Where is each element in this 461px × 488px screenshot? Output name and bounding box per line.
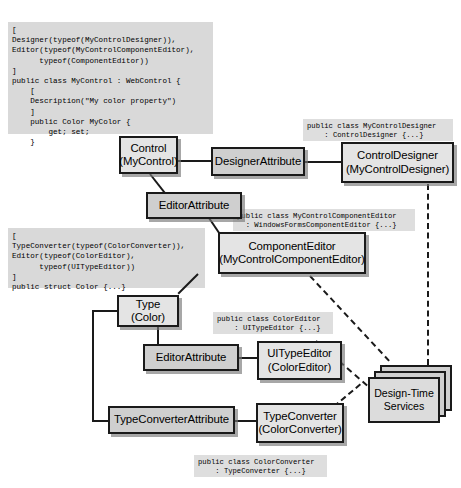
- node-component-editor[interactable]: ComponentEditor (MyControlComponentEdito…: [218, 232, 366, 274]
- node-type-converter-attribute[interactable]: TypeConverterAttribute: [108, 406, 235, 434]
- code-block-mycontrolcomponenteditor-source: public class MyControlComponentEditor : …: [233, 209, 415, 231]
- node-control-line2: (MyControl): [119, 155, 177, 168]
- node-control-line1: Control: [130, 142, 166, 155]
- node-type-color[interactable]: Type (Color): [117, 295, 179, 327]
- connector-type-typeconverterattribute-h1: [92, 310, 118, 312]
- node-type-converter-line2: (ColorConverter): [258, 423, 341, 436]
- node-type-color-line1: Type: [136, 298, 160, 311]
- node-designer-attribute[interactable]: DesignerAttribute: [211, 147, 305, 176]
- node-component-editor-line1: ComponentEditor: [248, 240, 335, 253]
- connector-editorattribute-uitypeeditor: [239, 357, 258, 359]
- connector-designerattribute-controldesigner: [304, 161, 341, 163]
- node-control-designer[interactable]: ControlDesigner (MyControlDesigner): [341, 142, 454, 183]
- node-editor-attribute-bottom[interactable]: EditorAttribute: [143, 344, 239, 371]
- node-type-color-line2: (Color): [131, 311, 165, 324]
- node-design-time-services-line2: Services: [384, 400, 425, 413]
- node-ui-type-editor-line1: UITypeEditor: [267, 347, 332, 360]
- node-editor-attribute-top[interactable]: EditorAttribute: [146, 192, 242, 219]
- code-block-colorconverter-source: public class ColorConverter : TypeConver…: [194, 455, 327, 477]
- node-type-converter[interactable]: TypeConverter (ColorConverter): [256, 403, 344, 443]
- node-design-time-services-line1: Design-Time: [374, 387, 434, 400]
- node-ui-type-editor[interactable]: UITypeEditor (ColorEditor): [257, 341, 342, 380]
- node-editor-attribute-bottom-label: EditorAttribute: [156, 351, 227, 364]
- code-block-mycontroldesigner-source: public class MyControlDesigner : Control…: [303, 119, 453, 141]
- node-type-converter-line1: TypeConverter: [263, 410, 336, 423]
- code-block-mycontrol-source: [ Designer(typeof(MyControlDesigner)), E…: [8, 22, 213, 134]
- node-designer-attribute-label: DesignerAttribute: [215, 155, 301, 168]
- node-control-designer-line2: (MyControlDesigner): [346, 163, 449, 176]
- diagram-canvas: [ Designer(typeof(MyControlDesigner)), E…: [0, 0, 461, 488]
- node-design-time-services[interactable]: Design-Time Services: [368, 377, 440, 423]
- node-editor-attribute-top-label: EditorAttribute: [159, 199, 230, 212]
- connector-typeconverterattribute-typeconverter: [234, 420, 257, 422]
- node-type-converter-attribute-label: TypeConverterAttribute: [114, 413, 229, 426]
- node-ui-type-editor-line2: (ColorEditor): [268, 361, 331, 374]
- connector-type-typeconverterattribute-v: [92, 310, 94, 422]
- dashed-controldesigner-services: [427, 184, 429, 365]
- node-control-designer-line1: ControlDesigner: [357, 149, 438, 162]
- code-block-coloreditor-source: public class ColorEditor : UITypeEditor …: [213, 312, 333, 334]
- code-block-color-source: [ TypeConverter(typeof(ColorConverter)),…: [8, 228, 205, 288]
- connector-type-typeconverterattribute-h2: [92, 420, 109, 422]
- node-component-editor-line2: (MyControlComponentEditor): [219, 253, 365, 266]
- node-control[interactable]: Control (MyControl): [119, 136, 178, 174]
- connector-control-designerattribute: [177, 160, 211, 162]
